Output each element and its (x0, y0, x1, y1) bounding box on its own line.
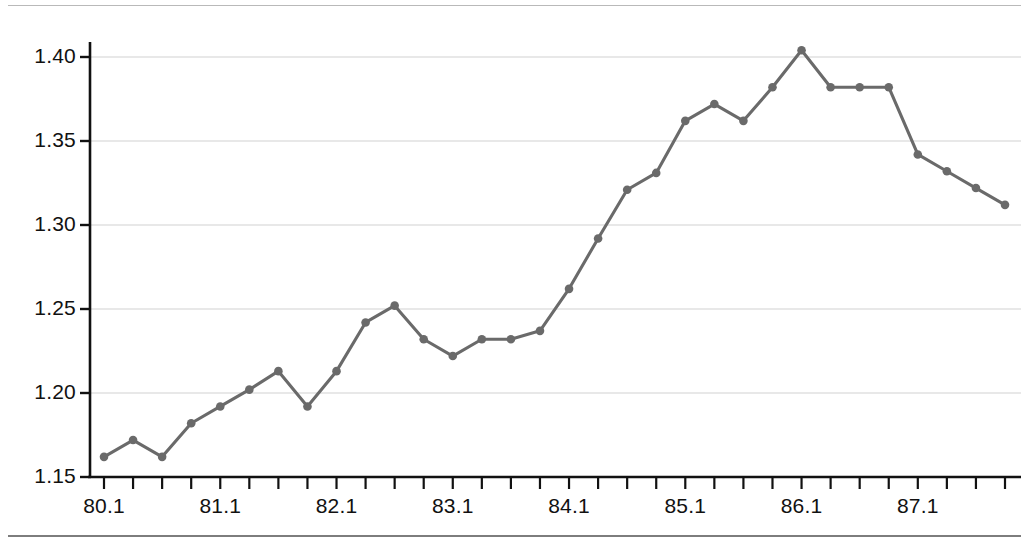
data-point-marker (681, 117, 690, 126)
data-point-marker (507, 335, 516, 344)
data-point-marker (332, 367, 341, 376)
x-axis-tick-label: 85.1 (640, 494, 730, 518)
y-axis-tick-label: 1.40 (0, 44, 76, 68)
series-line-1 (104, 50, 1005, 457)
data-point-marker (768, 83, 777, 92)
axes-group (88, 42, 1021, 477)
x-axis-tick-label: 84.1 (524, 494, 614, 518)
data-point-marker (652, 169, 661, 178)
y-axis-tick-label: 1.35 (0, 128, 76, 152)
data-point-marker (623, 185, 632, 194)
data-point-marker (100, 453, 109, 462)
data-point-marker (419, 335, 428, 344)
data-point-marker (448, 352, 457, 361)
data-point-marker (943, 167, 952, 176)
data-point-marker (361, 318, 370, 327)
x-axis-tick-label: 87.1 (873, 494, 963, 518)
data-point-marker (536, 327, 545, 336)
data-point-marker (972, 184, 981, 193)
data-point-marker (478, 335, 487, 344)
x-axis-tick-label: 86.1 (757, 494, 847, 518)
data-point-marker (1001, 201, 1010, 210)
chart-figure: 1.151.201.251.301.351.40 80.181.182.183.… (0, 0, 1029, 555)
x-axis-tick-label: 82.1 (292, 494, 382, 518)
data-point-marker (855, 83, 864, 92)
data-point-marker (739, 117, 748, 126)
data-point-marker (187, 419, 196, 428)
y-axis-tick-label: 1.25 (0, 296, 76, 320)
data-point-marker (303, 402, 312, 411)
x-axis-ticks (104, 478, 1005, 489)
data-point-marker (710, 100, 719, 109)
data-point-marker (884, 83, 893, 92)
data-point-marker (914, 150, 923, 159)
data-point-marker (158, 453, 167, 462)
data-point-marker (797, 46, 806, 55)
x-axis-tick-label: 83.1 (408, 494, 498, 518)
data-point-marker (826, 83, 835, 92)
data-point-marker (245, 385, 254, 394)
y-axis-tick-label: 1.30 (0, 212, 76, 236)
x-axis-tick-label: 80.1 (59, 494, 149, 518)
line-chart-plot (0, 0, 1029, 555)
data-point-marker (594, 234, 603, 243)
data-point-marker (129, 436, 138, 445)
bottom-divider-rule (8, 535, 1021, 537)
data-point-marker (216, 402, 225, 411)
data-point-marker (274, 367, 283, 376)
gridlines-group (91, 57, 1021, 393)
x-axis-tick-label: 81.1 (175, 494, 265, 518)
y-axis-tick-label: 1.15 (0, 464, 76, 488)
data-point-marker (390, 301, 399, 310)
data-point-marker (565, 285, 574, 294)
y-axis-tick-label: 1.20 (0, 380, 76, 404)
